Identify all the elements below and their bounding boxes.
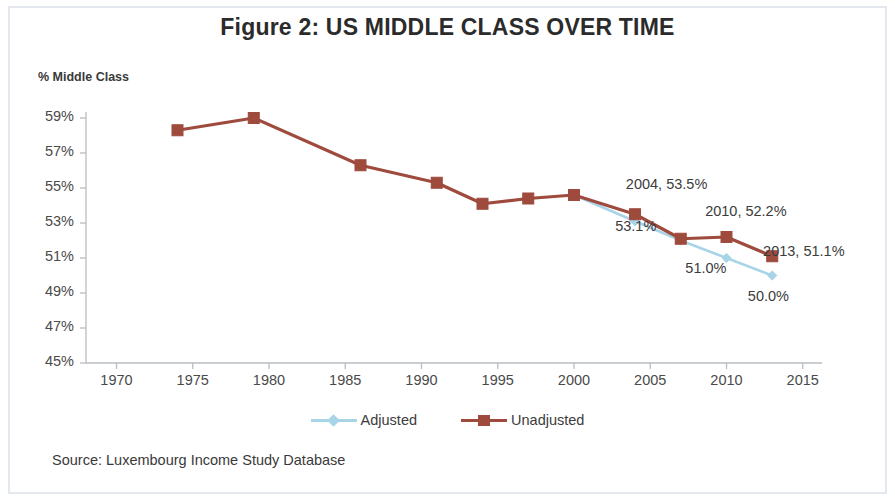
data-label: 2004, 53.5% bbox=[626, 176, 707, 192]
x-axis-tick-label: 1970 bbox=[87, 372, 147, 388]
x-axis-tick-label: 2010 bbox=[697, 372, 757, 388]
x-axis-tick-label: 1980 bbox=[239, 372, 299, 388]
legend-label-unadjusted: Unadjusted bbox=[511, 412, 584, 428]
figure-container: Figure 2: US MIDDLE CLASS OVER TIME % Mi… bbox=[0, 0, 895, 500]
y-axis-tick-label: 47% bbox=[28, 318, 74, 334]
chart-legend: Adjusted Unadjusted bbox=[0, 412, 895, 428]
data-label: 50.0% bbox=[748, 288, 789, 304]
legend-swatch-unadjusted bbox=[461, 413, 507, 427]
y-axis-tick-label: 51% bbox=[28, 248, 74, 264]
y-axis-tick-label: 53% bbox=[28, 213, 74, 229]
x-axis-tick-label: 2000 bbox=[544, 372, 604, 388]
legend-label-adjusted: Adjusted bbox=[361, 412, 417, 428]
source-note: Source: Luxembourg Income Study Database bbox=[52, 452, 345, 468]
y-axis-tick-label: 55% bbox=[28, 178, 74, 194]
legend-swatch-adjusted bbox=[311, 413, 357, 427]
data-label: 2010, 52.2% bbox=[705, 203, 786, 219]
x-axis-tick-label: 1990 bbox=[392, 372, 452, 388]
x-axis-tick-label: 1985 bbox=[315, 372, 375, 388]
x-axis-tick-label: 1995 bbox=[468, 372, 528, 388]
x-axis-tick-label: 1975 bbox=[163, 372, 223, 388]
y-axis-tick-label: 57% bbox=[28, 143, 74, 159]
legend-item-adjusted[interactable]: Adjusted bbox=[311, 412, 417, 428]
x-axis-tick-label: 2015 bbox=[773, 372, 833, 388]
x-axis-tick-label: 2005 bbox=[620, 372, 680, 388]
data-label: 51.0% bbox=[685, 260, 726, 276]
data-label: 2013, 51.1% bbox=[763, 243, 844, 259]
data-label: 53.1% bbox=[615, 218, 656, 234]
y-axis-tick-label: 45% bbox=[28, 353, 74, 369]
legend-item-unadjusted[interactable]: Unadjusted bbox=[461, 412, 584, 428]
y-axis-tick-label: 59% bbox=[28, 108, 74, 124]
y-axis-tick-label: 49% bbox=[28, 283, 74, 299]
